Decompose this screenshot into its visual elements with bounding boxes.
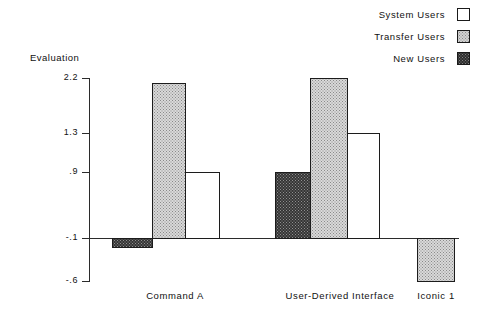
x-category-label-user-derived-interface: User-Derived Interface	[265, 291, 415, 301]
y-tick-label-neg-0-6: -.6	[44, 276, 78, 285]
bar-user-derived-interface-transfer-users[interactable]	[310, 78, 348, 239]
plot-area: 2.2 1.3 .9 -.1 -.6 Command A	[0, 0, 484, 321]
y-tick-label-neg-0-6-wrap: -.6	[44, 276, 78, 286]
y-tick-label-0-9: .9	[44, 167, 78, 176]
y-tick-label-1-3: 1.3	[44, 128, 78, 137]
y-tick-mark-0-9	[82, 172, 90, 173]
y-tick-label-neg-0-1-wrap: -.1	[44, 233, 78, 243]
y-tick-label-neg-0-1: -.1	[44, 233, 78, 242]
bar-user-derived-interface-system-users[interactable]	[347, 133, 380, 239]
y-tick-label-2-2-wrap: 2.2	[44, 73, 78, 83]
bar-user-derived-interface-new-users[interactable]	[275, 172, 311, 239]
bar-iconic-1-transfer-users[interactable]	[417, 238, 455, 282]
y-tick-mark-2-2	[82, 78, 90, 79]
y-tick-mark-1-3	[82, 133, 90, 134]
y-tick-mark-neg-0-6	[82, 281, 90, 282]
y-axis-line	[89, 78, 90, 282]
bar-command-a-system-users[interactable]	[185, 172, 220, 239]
bar-chart: System Users Transfer Users New Users Ev…	[0, 0, 484, 321]
y-tick-label-0-9-wrap: .9	[44, 167, 78, 177]
y-tick-label-2-2: 2.2	[44, 73, 78, 82]
y-tick-label-1-3-wrap: 1.3	[44, 128, 78, 138]
x-category-label-iconic-1: Iconic 1	[400, 291, 472, 301]
bar-command-a-new-users[interactable]	[112, 238, 153, 248]
x-category-label-command-a: Command A	[125, 291, 225, 301]
bar-command-a-transfer-users[interactable]	[152, 83, 186, 239]
